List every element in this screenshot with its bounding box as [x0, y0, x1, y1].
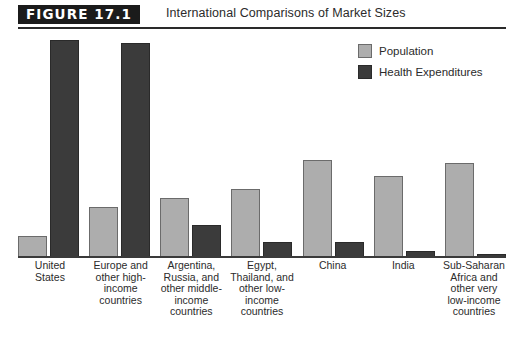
bar-health-expenditures: [192, 225, 221, 258]
bar-group: [89, 34, 150, 258]
category-label: Argentina, Russia, and other middle- inc…: [159, 260, 223, 340]
bar-health-expenditures: [50, 40, 79, 258]
x-axis-category-labels: United StatesEurope and other high- inco…: [18, 260, 506, 340]
bar-group: [18, 34, 79, 258]
legend-item: Population: [358, 42, 508, 60]
category-label: Sub-Saharan Africa and other very low-in…: [442, 260, 506, 340]
chart-legend: PopulationHealth Expenditures: [358, 42, 508, 84]
bar-population: [18, 236, 47, 258]
bar-group: [231, 34, 292, 258]
chart-baseline-axis: [18, 256, 506, 258]
health-expenditures-swatch: [358, 65, 372, 79]
bar-population: [303, 160, 332, 258]
legend-item-label: Health Expenditures: [379, 66, 483, 78]
bar-population: [445, 163, 474, 258]
category-label: India: [371, 260, 435, 340]
population-swatch: [358, 44, 372, 58]
category-label: United States: [18, 260, 82, 340]
category-label: Egypt, Thailand, and other low- income c…: [230, 260, 294, 340]
bar-population: [89, 207, 118, 258]
bar-group: [160, 34, 221, 258]
category-label: China: [301, 260, 365, 340]
bar-population: [160, 198, 189, 258]
bar-population: [374, 176, 403, 258]
bar-population: [231, 189, 260, 258]
bar-health-expenditures: [121, 43, 150, 258]
figure-number-badge: FIGURE 17.1: [18, 5, 140, 24]
figure-header: FIGURE 17.1 International Comparisons of…: [0, 0, 520, 30]
category-label: Europe and other high- income countries: [89, 260, 153, 340]
figure-title: International Comparisons of Market Size…: [166, 6, 406, 20]
legend-item-label: Population: [379, 45, 433, 57]
bar-group: [303, 34, 364, 258]
legend-item: Health Expenditures: [358, 63, 508, 81]
header-divider: [18, 27, 506, 29]
